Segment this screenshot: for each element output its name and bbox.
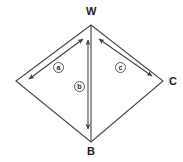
measure-arrow-a <box>29 39 83 79</box>
segment-label-b: b <box>74 81 85 92</box>
diagram-canvas <box>0 0 183 162</box>
vertex-label-c: C <box>169 76 177 87</box>
geometry-diagram: W C B a b c <box>0 0 183 162</box>
kite-polygon <box>16 25 163 142</box>
segment-label-c: c <box>115 62 126 73</box>
measure-arrow-c <box>99 39 152 76</box>
vertex-label-b: B <box>87 146 95 157</box>
segment-label-a: a <box>53 62 64 73</box>
vertex-label-w: W <box>86 6 97 17</box>
kite-outline <box>16 25 163 142</box>
